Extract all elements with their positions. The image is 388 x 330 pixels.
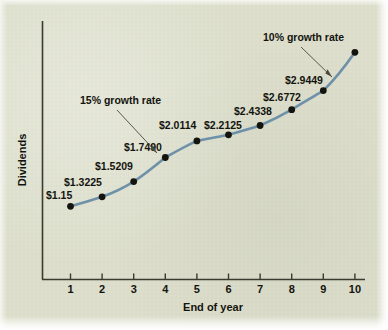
- x-tick-label-4: 4: [162, 283, 169, 295]
- value-label-2: $1.3225: [64, 176, 102, 188]
- value-label-7: $2.4338: [234, 105, 272, 117]
- value-label-5: $2.0114: [159, 119, 197, 131]
- y-axis-title: Dividends: [16, 134, 28, 187]
- chart-figure: 1 2 3 4 5 6 7 8 9 10 End of year Dividen…: [0, 0, 388, 330]
- annotation-10-percent-label: 10% growth rate: [263, 31, 344, 43]
- x-axis-ticks: [71, 274, 355, 280]
- x-tick-label-7: 7: [257, 283, 263, 295]
- value-label-4: $1.7490: [124, 141, 162, 153]
- annotation-10-percent: 10% growth rate: [263, 31, 344, 77]
- data-point-7[interactable]: [257, 122, 264, 129]
- data-point-10[interactable]: [352, 49, 359, 56]
- x-tick-label-9: 9: [320, 283, 326, 295]
- annotation-10-percent-arrowhead: [325, 69, 332, 77]
- x-tick-label-5: 5: [194, 283, 200, 295]
- x-axis-title: End of year: [183, 301, 244, 313]
- x-tick-label-10: 10: [349, 283, 361, 295]
- x-tick-label-2: 2: [99, 283, 105, 295]
- data-point-2[interactable]: [99, 193, 106, 200]
- data-point-4[interactable]: [162, 154, 169, 161]
- x-axis-tick-labels: 1 2 3 4 5 6 7 8 9 10: [67, 283, 361, 295]
- data-point-9[interactable]: [320, 87, 327, 94]
- x-tick-label-1: 1: [67, 283, 73, 295]
- annotation-15-percent-label: 15% growth rate: [80, 94, 161, 106]
- data-point-5[interactable]: [194, 138, 201, 145]
- value-label-8: $2.6772: [263, 91, 301, 103]
- x-tick-label-8: 8: [289, 283, 295, 295]
- value-label-3: $1.5209: [95, 160, 133, 172]
- x-tick-label-6: 6: [225, 283, 231, 295]
- data-point-6[interactable]: [225, 131, 232, 138]
- data-point-8[interactable]: [288, 106, 295, 113]
- axis-lines: [42, 21, 365, 280]
- data-point-1[interactable]: [67, 203, 74, 210]
- value-label-6: $2.2125: [204, 119, 242, 131]
- x-tick-label-3: 3: [131, 283, 137, 295]
- dividends-line-chart: 1 2 3 4 5 6 7 8 9 10 End of year Dividen…: [0, 0, 388, 330]
- value-label-9: $2.9449: [285, 74, 323, 86]
- value-label-1: $1.15: [46, 189, 72, 201]
- annotation-15-percent: 15% growth rate: [80, 94, 161, 153]
- data-point-3[interactable]: [130, 178, 137, 185]
